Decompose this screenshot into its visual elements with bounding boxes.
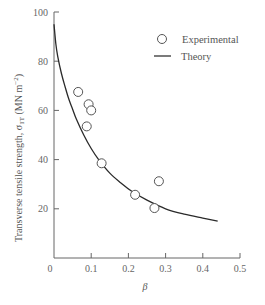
data-point-circle-icon: [87, 106, 96, 115]
data-point-circle-icon: [74, 87, 83, 96]
data-point-circle-icon: [97, 159, 106, 168]
axes: [54, 12, 240, 258]
legend: Experimental Theory: [154, 34, 239, 62]
legend-experimental-label: Experimental: [182, 34, 239, 45]
x-tick-label: 0.4: [197, 263, 210, 274]
data-point-circle-icon: [150, 204, 159, 213]
data-point-circle-icon: [154, 177, 163, 186]
legend-circle-icon: [158, 35, 167, 44]
y-axis-label-close: ): [13, 74, 25, 77]
y-axis-label-units: (MN m: [13, 85, 25, 117]
x-tick-label: 0.5: [234, 263, 247, 274]
x-axis-label: β: [142, 281, 148, 292]
data-point-circle-icon: [131, 190, 140, 199]
y-tick-label: 80: [38, 56, 48, 67]
x-tick-label: 0.3: [159, 263, 172, 274]
y-tick-label: 100: [33, 7, 48, 18]
experimental-points: [74, 87, 164, 212]
x-tick-label: 0.1: [85, 263, 98, 274]
legend-theory-label: Theory: [181, 51, 212, 62]
chart: 00.10.20.30.40.520406080100 Experimental…: [0, 0, 265, 305]
data-point-circle-icon: [82, 122, 91, 131]
y-tick-label: 60: [38, 105, 48, 116]
ticks: 00.10.20.30.40.520406080100: [33, 7, 246, 275]
x-tick-label: 0: [48, 263, 53, 274]
y-axis-label: Transverse tensile strength, σ1T (MN m−2…: [12, 74, 26, 242]
y-axis-label-main: Transverse tensile strength, σ: [13, 124, 24, 242]
x-tick-label: 0.2: [122, 263, 135, 274]
y-tick-label: 40: [38, 154, 48, 165]
y-tick-label: 20: [38, 203, 48, 214]
